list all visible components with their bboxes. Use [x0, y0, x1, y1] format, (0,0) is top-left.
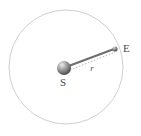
earth-sphere: [112, 46, 117, 51]
sun-label: S: [60, 76, 66, 88]
earth-label: E: [123, 42, 130, 54]
radius-label: r: [90, 63, 94, 73]
diagram-canvas: S E r: [0, 0, 141, 136]
orbit-diagram-figure: S E r: [0, 0, 141, 136]
sun-sphere: [57, 61, 71, 75]
